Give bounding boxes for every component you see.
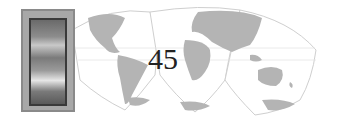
photo-frame [21,9,75,112]
portrait-photo-icon [31,20,65,104]
page-number: 45 [148,44,178,74]
photo-border [29,18,67,106]
